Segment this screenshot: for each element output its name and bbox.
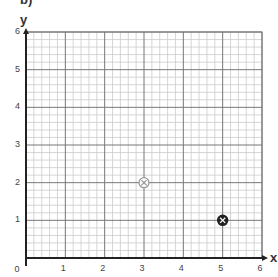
x-tick-label: 2 [100,263,105,273]
x-tick-label: 3 [139,263,144,273]
x-tick-label: 0 [14,264,19,274]
coordinate-grid-chart: b) x y 0123456 123456 [0,0,278,277]
x-axis-label: x [270,250,278,265]
circled-x-marker-icon [139,178,149,188]
y-tick-label: 1 [15,214,20,224]
y-axis-label: y [20,12,28,27]
y-tick-label: 5 [15,64,20,74]
x-tick-label: 4 [179,263,184,273]
y-tick-label: 2 [15,177,20,187]
y-axis-arrow-icon [23,28,29,34]
part-label: b) [20,0,32,7]
x-axis-arrow-icon [262,255,268,261]
y-tick-label: 6 [15,26,20,36]
y-tick-label: 3 [15,139,20,149]
x-tick-labels: 0123456 [14,263,262,274]
x-tick-label: 6 [257,263,262,273]
y-tick-labels: 123456 [15,26,20,224]
circled-x-marker-icon [218,215,228,225]
y-tick-label: 4 [15,101,20,111]
x-tick-label: 1 [61,263,66,273]
x-tick-label: 5 [218,263,223,273]
